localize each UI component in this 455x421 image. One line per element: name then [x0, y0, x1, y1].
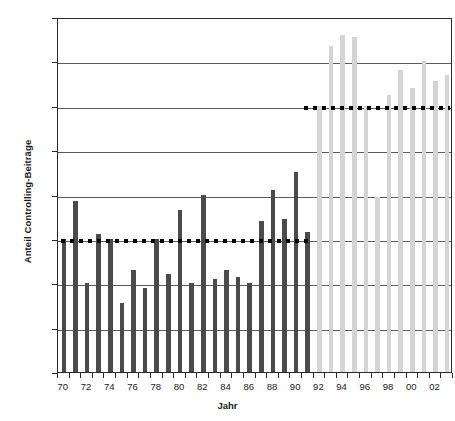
x-tick-label: 74	[104, 381, 115, 392]
x-tick-mark	[452, 373, 453, 378]
bar	[305, 232, 310, 372]
x-tick-mark	[336, 373, 337, 378]
bar	[317, 106, 322, 372]
bar	[73, 201, 78, 372]
bar	[271, 190, 276, 372]
x-tick-mark	[231, 373, 232, 378]
x-tick-mark	[406, 373, 407, 378]
x-tick-mark	[243, 373, 244, 378]
reference-line-12	[304, 106, 450, 110]
x-tick-label: 76	[127, 381, 138, 392]
x-tick-mark	[80, 373, 81, 378]
x-tick-label: 00	[406, 381, 417, 392]
x-tick-mark	[313, 373, 314, 378]
bar	[340, 35, 345, 372]
x-tick-mark	[429, 373, 430, 378]
x-tick-mark	[208, 373, 209, 378]
x-tick-label: 80	[174, 381, 185, 392]
bar	[294, 172, 299, 372]
bar	[329, 46, 334, 372]
bar	[445, 75, 450, 372]
bar	[259, 221, 264, 372]
x-tick-label: 90	[290, 381, 301, 392]
plot-area	[57, 18, 452, 373]
bar	[387, 95, 392, 372]
x-tick-mark	[115, 373, 116, 378]
x-tick-mark	[150, 373, 151, 378]
x-tick-label: 70	[58, 381, 69, 392]
x-tick-mark	[92, 373, 93, 378]
bar	[166, 274, 171, 372]
x-tick-label: 96	[360, 381, 371, 392]
bar	[96, 234, 101, 372]
x-axis-label: Jahr	[0, 400, 455, 411]
bar	[85, 283, 90, 372]
bar	[398, 70, 403, 372]
bar	[352, 37, 357, 372]
x-tick-mark	[371, 373, 372, 378]
x-tick-mark	[289, 373, 290, 378]
bar	[364, 106, 369, 372]
x-tick-label: 78	[150, 381, 161, 392]
x-tick-label: 72	[81, 381, 92, 392]
x-tick-label: 82	[197, 381, 208, 392]
x-tick-mark	[57, 373, 58, 378]
bar	[131, 270, 136, 372]
x-tick-mark	[324, 373, 325, 378]
chart-root: Anteil Controlling-Beiträge Jahr 0%2%4%6…	[0, 0, 455, 421]
x-tick-label: 84	[220, 381, 231, 392]
x-tick-mark	[359, 373, 360, 378]
x-tick-mark	[301, 373, 302, 378]
y-axis-label: Anteil Controlling-Beiträge	[22, 102, 33, 302]
x-tick-label: 86	[243, 381, 254, 392]
bar	[154, 239, 159, 372]
x-tick-label: 94	[336, 381, 347, 392]
x-tick-mark	[278, 373, 279, 378]
x-tick-mark	[394, 373, 395, 378]
bar	[108, 239, 113, 372]
bar	[433, 81, 438, 372]
x-tick-mark	[220, 373, 221, 378]
bar	[236, 277, 241, 372]
bar	[247, 283, 252, 372]
x-tick-mark	[440, 373, 441, 378]
x-tick-label: 98	[383, 381, 394, 392]
x-tick-mark	[69, 373, 70, 378]
bar	[178, 210, 183, 372]
x-tick-mark	[103, 373, 104, 378]
reference-line-6	[61, 239, 312, 243]
x-tick-label: 02	[429, 381, 440, 392]
x-tick-mark	[162, 373, 163, 378]
bar	[143, 288, 148, 372]
x-tick-mark	[382, 373, 383, 378]
bar	[120, 303, 125, 372]
x-tick-mark	[127, 373, 128, 378]
x-tick-mark	[196, 373, 197, 378]
bar	[224, 270, 229, 372]
x-tick-mark	[173, 373, 174, 378]
x-tick-label: 92	[313, 381, 324, 392]
x-tick-mark	[266, 373, 267, 378]
x-tick-mark	[417, 373, 418, 378]
bar	[213, 279, 218, 372]
bar	[62, 239, 67, 372]
bar	[410, 88, 415, 372]
x-tick-mark	[347, 373, 348, 378]
bar-series	[58, 19, 451, 372]
bar	[201, 195, 206, 373]
x-tick-mark	[185, 373, 186, 378]
x-tick-mark	[255, 373, 256, 378]
bar	[189, 283, 194, 372]
x-tick-label: 88	[267, 381, 278, 392]
x-tick-mark	[138, 373, 139, 378]
bar	[375, 197, 380, 372]
